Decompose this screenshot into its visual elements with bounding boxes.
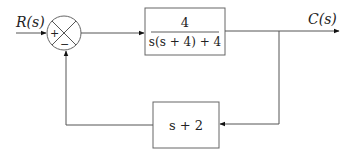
feedback-return-arrow	[66, 51, 153, 125]
forward-denominator: s(s + 4) + 4	[149, 35, 222, 49]
plus-sign: +	[50, 27, 59, 40]
feedback-pickoff-arrow	[220, 31, 279, 124]
feedback-block: s + 2	[153, 102, 219, 148]
minus-sign: −	[60, 38, 69, 51]
forward-block: 4 s(s + 4) + 4	[145, 8, 225, 55]
feedback-transfer-function: s + 2	[169, 118, 203, 133]
block-diagram: R(s) + − 4 s(s + 4) + 4 C(s) s + 2	[0, 0, 351, 156]
forward-numerator: 4	[181, 15, 189, 30]
input-signal: R(s)	[15, 14, 46, 33]
output-label: C(s)	[308, 11, 337, 27]
summing-junction: + −	[47, 16, 81, 51]
input-label: R(s)	[15, 14, 45, 30]
